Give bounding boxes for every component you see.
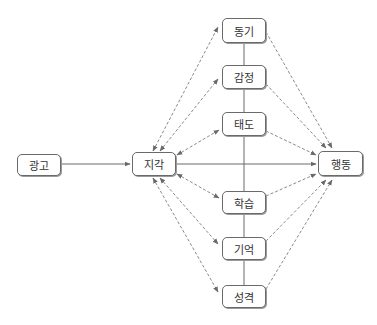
node-behavior-label: 행동 (331, 156, 351, 172)
edge-memory-to-behavior (266, 180, 326, 241)
node-behavior: 행동 (318, 151, 363, 176)
edge-perception-motivation (153, 27, 218, 151)
node-ad-label: 광고 (29, 157, 49, 173)
node-memory-label: 기억 (234, 241, 254, 257)
node-attitude: 태도 (222, 112, 266, 136)
node-attitude-label: 태도 (234, 116, 254, 132)
node-learning: 학습 (222, 191, 266, 214)
node-motivation: 동기 (222, 18, 266, 43)
node-learning-label: 학습 (234, 195, 254, 211)
edge-attitude-to-behavior (266, 131, 316, 155)
node-emotion: 감정 (222, 65, 266, 89)
edge-perception-attitude (177, 130, 219, 155)
node-emotion-label: 감정 (234, 69, 254, 85)
node-perception-label: 지각 (144, 156, 164, 172)
edge-perception-memory (160, 178, 218, 244)
node-personality-label: 성격 (234, 289, 254, 305)
node-personality: 성격 (222, 285, 266, 308)
node-memory: 기억 (222, 237, 266, 260)
node-perception: 지각 (132, 152, 176, 176)
edge-emotion-to-behavior (266, 84, 326, 148)
edge-personality-to-behavior (266, 180, 332, 289)
edge-learning-to-behavior (266, 174, 316, 196)
edge-perception-personality (153, 178, 218, 292)
edge-motivation-to-behavior (266, 32, 332, 148)
edge-perception-emotion (160, 79, 218, 151)
node-ad: 광고 (17, 154, 61, 176)
edge-perception-learning (177, 174, 219, 198)
node-motivation-label: 동기 (234, 23, 254, 39)
